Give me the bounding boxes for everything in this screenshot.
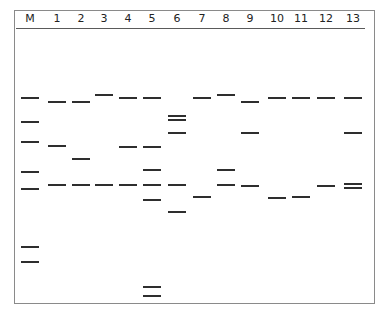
band (21, 171, 39, 173)
band (217, 169, 235, 171)
band (292, 196, 310, 198)
band (217, 94, 235, 96)
band (48, 101, 66, 103)
band (241, 101, 259, 103)
gel-lanes (0, 0, 388, 319)
band (268, 197, 286, 199)
band (168, 132, 186, 134)
band (21, 261, 39, 263)
band (268, 97, 286, 99)
band (119, 97, 137, 99)
band (292, 97, 310, 99)
band (344, 183, 362, 185)
band (168, 115, 186, 117)
band (21, 141, 39, 143)
band (344, 187, 362, 189)
band (72, 184, 90, 186)
band (143, 199, 161, 201)
band (95, 94, 113, 96)
band (72, 101, 90, 103)
band (143, 169, 161, 171)
band (241, 132, 259, 134)
band (344, 97, 362, 99)
band (143, 184, 161, 186)
band (72, 158, 90, 160)
band (193, 196, 211, 198)
band (143, 146, 161, 148)
band (143, 295, 161, 297)
band (143, 286, 161, 288)
band (48, 184, 66, 186)
band (21, 121, 39, 123)
band (119, 146, 137, 148)
band (95, 184, 113, 186)
band (317, 97, 335, 99)
band (241, 185, 259, 187)
band (193, 97, 211, 99)
band (168, 211, 186, 213)
band (344, 132, 362, 134)
band (317, 185, 335, 187)
band (217, 184, 235, 186)
band (21, 246, 39, 248)
band (21, 97, 39, 99)
band (119, 184, 137, 186)
band (48, 145, 66, 147)
band (168, 184, 186, 186)
band (143, 97, 161, 99)
band (168, 119, 186, 121)
band (21, 188, 39, 190)
